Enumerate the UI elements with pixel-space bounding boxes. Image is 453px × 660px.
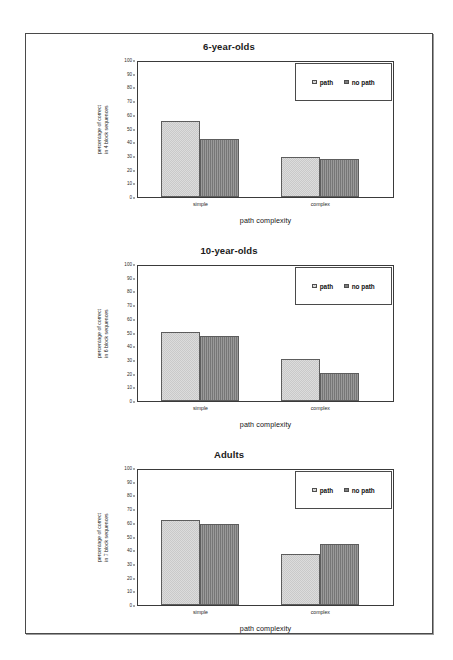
y-axis-title: percentage of correctin 6 block sequence… — [94, 265, 112, 402]
y-tick-mark — [133, 198, 136, 199]
y-tick-label: 50 — [127, 331, 132, 336]
y-tick-label: 70 — [127, 100, 132, 105]
y-tick-label: 90 — [127, 72, 132, 77]
y-tick-label: 60 — [127, 114, 132, 119]
y-tick-mark — [133, 278, 136, 279]
bar-path-simple — [161, 121, 200, 197]
y-tick-label: 20 — [127, 372, 132, 377]
y-tick-mark — [133, 564, 136, 565]
x-tick-label: complex — [311, 201, 330, 207]
y-tick-label: 90 — [127, 480, 132, 485]
y-tick-mark — [133, 129, 136, 130]
chart-legend: pathno path — [295, 267, 392, 305]
y-tick-mark — [133, 360, 136, 361]
y-axis-ticks: 0102030405060708090100 — [114, 265, 135, 402]
legend-entry: no path — [344, 79, 375, 86]
y-tick-mark — [133, 292, 136, 293]
x-tick-label: complex — [311, 609, 330, 615]
chart-panel: 10-year-olds0102030405060708090100percen… — [26, 242, 432, 442]
y-axis-ticks: 0102030405060708090100 — [114, 61, 135, 198]
y-axis-title-line1: percentage of correct — [96, 105, 102, 154]
y-tick-mark — [133, 606, 136, 607]
x-axis-title: path complexity — [137, 216, 394, 225]
x-tick-label: simple — [193, 201, 208, 207]
y-axis-title: percentage of correctin 4 block sequence… — [94, 61, 112, 198]
y-tick-mark — [133, 388, 136, 389]
y-tick-mark — [133, 319, 136, 320]
y-tick-label: 80 — [127, 290, 132, 295]
y-tick-mark — [133, 551, 136, 552]
legend-label: path — [320, 283, 334, 290]
legend-label: path — [320, 487, 334, 494]
bar-no-path-complex — [320, 159, 359, 197]
x-axis-ticks: simplecomplex — [137, 609, 394, 621]
y-axis-title-line1: percentage of correct — [96, 309, 102, 358]
y-tick-mark — [133, 88, 136, 89]
legend-label: no path — [352, 283, 375, 290]
legend-entry: path — [312, 79, 333, 86]
bar-no-path-simple — [200, 524, 239, 605]
chart-title: 10-year-olds — [26, 245, 432, 256]
y-axis-title-line2: in 7 block sequences — [103, 513, 109, 561]
x-axis-title: path complexity — [137, 420, 394, 429]
dark-gray-swatch — [344, 80, 349, 85]
light-checker-swatch — [312, 80, 317, 85]
bar-path-complex — [281, 554, 320, 605]
legend-label: no path — [352, 79, 375, 86]
chart-legend: pathno path — [295, 471, 392, 509]
chart-title: 6-year-olds — [26, 41, 432, 52]
y-tick-label: 100 — [124, 467, 132, 472]
legend-label: no path — [352, 487, 375, 494]
y-axis-title-line1: percentage of correct — [96, 513, 102, 562]
y-tick-label: 20 — [127, 168, 132, 173]
y-tick-label: 50 — [127, 127, 132, 132]
y-tick-label: 70 — [127, 304, 132, 309]
y-tick-mark — [133, 102, 136, 103]
light-checker-swatch — [312, 488, 317, 493]
y-tick-mark — [133, 170, 136, 171]
x-axis-title: path complexity — [137, 624, 394, 633]
bar-no-path-complex — [320, 373, 359, 401]
y-tick-label: 100 — [124, 263, 132, 268]
y-tick-mark — [133, 115, 136, 116]
y-tick-label: 10 — [127, 590, 132, 595]
bar-no-path-simple — [200, 139, 239, 197]
legend-entry: path — [312, 487, 333, 494]
y-tick-mark — [133, 374, 136, 375]
y-tick-label: 60 — [127, 318, 132, 323]
y-tick-label: 20 — [127, 576, 132, 581]
legend-entry: path — [312, 283, 333, 290]
y-tick-label: 40 — [127, 141, 132, 146]
y-tick-mark — [133, 402, 136, 403]
y-tick-mark — [133, 469, 136, 470]
legend-entry: no path — [344, 487, 375, 494]
y-tick-mark — [133, 537, 136, 538]
y-tick-label: 60 — [127, 522, 132, 527]
y-tick-mark — [133, 482, 136, 483]
bar-path-complex — [281, 359, 320, 401]
y-tick-mark — [133, 510, 136, 511]
y-tick-mark — [133, 156, 136, 157]
y-tick-label: 40 — [127, 345, 132, 350]
legend-label: path — [320, 79, 334, 86]
x-tick-label: complex — [311, 405, 330, 411]
y-tick-mark — [133, 61, 136, 62]
y-axis-ticks: 0102030405060708090100 — [114, 469, 135, 606]
x-tick-label: simple — [193, 405, 208, 411]
y-tick-label: 30 — [127, 563, 132, 568]
y-tick-label: 90 — [127, 276, 132, 281]
y-tick-mark — [133, 74, 136, 75]
y-tick-label: 80 — [127, 86, 132, 91]
y-tick-mark — [133, 306, 136, 307]
chart-panel: Adults0102030405060708090100percentage o… — [26, 446, 432, 646]
y-tick-mark — [133, 592, 136, 593]
y-tick-label: 100 — [124, 59, 132, 64]
bar-no-path-simple — [200, 336, 239, 401]
y-tick-label: 80 — [127, 494, 132, 499]
dark-gray-swatch — [344, 488, 349, 493]
y-tick-label: 70 — [127, 508, 132, 513]
light-checker-swatch — [312, 284, 317, 289]
figure-frame: 6-year-olds0102030405060708090100percent… — [25, 33, 433, 634]
y-tick-mark — [133, 496, 136, 497]
chart-legend: pathno path — [295, 63, 392, 101]
